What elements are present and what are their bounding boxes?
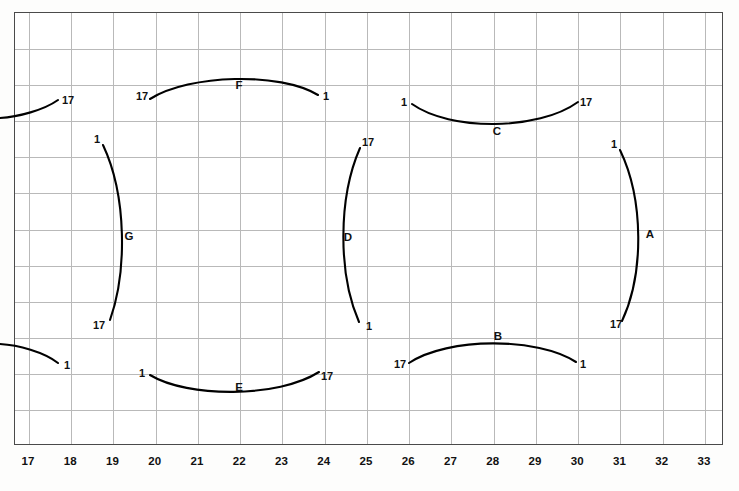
gridline-vertical bbox=[198, 13, 199, 444]
curve-b-end-label: 1 bbox=[580, 358, 586, 370]
curve-partial-7-end-label: 17 bbox=[62, 94, 74, 106]
x-tick-label: 21 bbox=[191, 455, 204, 467]
gridline-horizontal bbox=[15, 85, 722, 86]
gridline-vertical bbox=[451, 13, 452, 444]
x-tick-label: 30 bbox=[571, 455, 584, 467]
gridline-vertical bbox=[29, 13, 30, 444]
gridline-horizontal bbox=[15, 374, 722, 375]
x-tick-label: 19 bbox=[106, 455, 119, 467]
curve-name-a: A bbox=[646, 228, 654, 240]
gridline-vertical bbox=[536, 13, 537, 444]
diagram-page: 1718192021222324252627282930313233 F171C… bbox=[0, 0, 739, 491]
curve-d-start-label: 17 bbox=[362, 136, 374, 148]
gridline-horizontal bbox=[15, 302, 722, 303]
x-tick-label: 17 bbox=[22, 455, 35, 467]
curve-name-g: G bbox=[125, 230, 134, 242]
gridline-vertical bbox=[282, 13, 283, 444]
curve-d-end-label: 1 bbox=[366, 320, 372, 332]
x-tick-label: 22 bbox=[233, 455, 246, 467]
curve-name-f: F bbox=[235, 79, 242, 91]
curve-b-start-label: 17 bbox=[394, 358, 406, 370]
gridline-horizontal bbox=[15, 49, 722, 50]
x-tick-label: 20 bbox=[148, 455, 161, 467]
gridline-vertical bbox=[705, 13, 706, 444]
gridline-vertical bbox=[240, 13, 241, 444]
x-tick-label: 18 bbox=[64, 455, 77, 467]
curve-f-start-label: 17 bbox=[136, 90, 148, 102]
gridline-vertical bbox=[409, 13, 410, 444]
x-tick-label: 27 bbox=[444, 455, 457, 467]
curve-e-end-label: 17 bbox=[321, 370, 333, 382]
curve-c-end-label: 17 bbox=[580, 96, 592, 108]
gridline-vertical bbox=[620, 13, 621, 444]
x-tick-label: 32 bbox=[655, 455, 668, 467]
gridline-horizontal bbox=[15, 121, 722, 122]
x-tick-label: 31 bbox=[613, 455, 626, 467]
curve-g-end-label: 17 bbox=[93, 319, 105, 331]
curve-name-d: D bbox=[344, 231, 352, 243]
curve-name-c: C bbox=[493, 125, 501, 137]
gridline-horizontal bbox=[15, 157, 722, 158]
curve-a-end-label: 17 bbox=[610, 318, 622, 330]
curve-name-e: E bbox=[235, 381, 243, 393]
curve-c-start-label: 1 bbox=[401, 96, 407, 108]
x-tick-label: 25 bbox=[360, 455, 373, 467]
x-tick-label: 23 bbox=[275, 455, 288, 467]
gridline-vertical bbox=[663, 13, 664, 444]
gridline-horizontal bbox=[15, 266, 722, 267]
gridline-vertical bbox=[156, 13, 157, 444]
curve-g-start-label: 1 bbox=[94, 133, 100, 145]
curve-name-b: B bbox=[494, 330, 502, 342]
gridline-vertical bbox=[113, 13, 114, 444]
x-tick-label: 29 bbox=[529, 455, 542, 467]
gridline-horizontal bbox=[15, 410, 722, 411]
plot-area bbox=[14, 12, 723, 445]
x-tick-label: 28 bbox=[486, 455, 499, 467]
x-tick-label: 26 bbox=[402, 455, 415, 467]
gridline-horizontal bbox=[15, 338, 722, 339]
x-tick-label: 33 bbox=[698, 455, 711, 467]
curve-partial-8-end-label: 1 bbox=[64, 359, 70, 371]
x-tick-label: 24 bbox=[317, 455, 330, 467]
gridline-vertical bbox=[71, 13, 72, 444]
gridline-vertical bbox=[578, 13, 579, 444]
gridline-vertical bbox=[494, 13, 495, 444]
curve-f-end-label: 1 bbox=[323, 90, 329, 102]
gridline-horizontal bbox=[15, 230, 722, 231]
curve-a-start-label: 1 bbox=[611, 138, 617, 150]
gridline-vertical bbox=[367, 13, 368, 444]
gridline-horizontal bbox=[15, 193, 722, 194]
curve-e-start-label: 1 bbox=[139, 367, 145, 379]
